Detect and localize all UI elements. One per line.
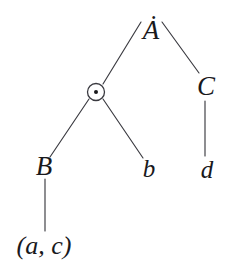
node-B-label: B: [36, 151, 53, 181]
circled-dot-icon-center: [94, 90, 98, 94]
edge-circle-to-B: [50, 99, 89, 157]
node-C-label: C: [197, 71, 215, 101]
node-b: b: [143, 156, 156, 181]
node-B: B: [36, 153, 53, 180]
node-root-label: Ȧ: [143, 15, 160, 45]
tree-diagram-figure: Ȧ C B b d (a, c): [0, 0, 235, 278]
node-a-c-tuple: (a, c): [17, 233, 72, 259]
node-b-label: b: [143, 155, 156, 182]
node-d: d: [201, 157, 214, 182]
edge-circle-to-b: [103, 99, 143, 158]
node-root-A-dot: Ȧ: [143, 17, 160, 44]
node-C: C: [197, 73, 215, 100]
node-tuple-label: (a, c): [17, 231, 72, 260]
node-d-label: d: [201, 156, 214, 183]
edge-root-to-circle: [103, 22, 141, 84]
edge-root-to-C: [162, 22, 199, 73]
